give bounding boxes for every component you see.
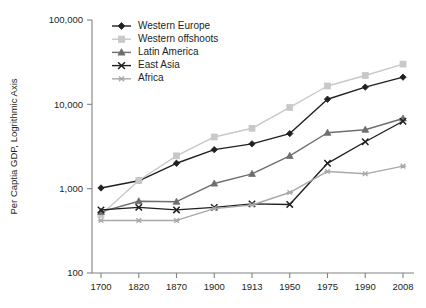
marker-diamond	[362, 84, 368, 90]
x-tick-label: 1990	[355, 281, 376, 292]
marker-x	[362, 139, 368, 145]
marker-square	[287, 104, 293, 110]
series-line	[101, 121, 403, 210]
x-tick-label: 2008	[392, 281, 413, 292]
y-axis-title: Per Captia GDP, Logrithmic Axis	[8, 78, 19, 214]
marker-square	[174, 153, 180, 159]
x-tick-label: 1975	[317, 281, 338, 292]
series-line	[101, 64, 403, 215]
legend-label-western-offshoots: Western offshoots	[138, 33, 218, 44]
chart-container: 1001,00010,000100,0001700182018701900191…	[0, 0, 426, 308]
x-tick-label: 1950	[279, 281, 300, 292]
series-east-asia	[98, 118, 406, 213]
marker-square	[400, 61, 406, 67]
marker-asterisk	[98, 218, 104, 223]
x-tick-label: 1700	[90, 281, 111, 292]
marker-diamond	[173, 160, 179, 166]
x-tick-label: 1900	[204, 281, 225, 292]
legend-label-east-asia: East Asia	[138, 59, 180, 70]
legend-label-latin-america: Latin America	[138, 46, 199, 57]
marker-asterisk	[400, 164, 406, 169]
gdp-line-chart: 1001,00010,000100,0001700182018701900191…	[0, 0, 426, 308]
marker-square	[249, 125, 255, 131]
marker-square	[325, 83, 331, 89]
marker-x	[324, 160, 330, 166]
marker-square	[211, 134, 217, 140]
marker-square	[362, 73, 368, 79]
marker-asterisk	[136, 218, 142, 223]
marker-diamond	[118, 23, 125, 30]
marker-asterisk	[118, 76, 125, 81]
marker-asterisk	[173, 218, 179, 223]
x-tick-label: 1870	[166, 281, 187, 292]
marker-square	[118, 36, 124, 42]
marker-triangle	[286, 152, 293, 158]
marker-diamond	[249, 141, 255, 147]
y-tick-label: 100,000	[49, 14, 83, 25]
marker-square	[136, 178, 142, 184]
marker-diamond	[98, 185, 104, 191]
series-line	[101, 118, 403, 211]
marker-diamond	[400, 74, 406, 80]
legend-label-western-europe: Western Europe	[138, 20, 211, 31]
y-tick-label: 10,000	[54, 99, 83, 110]
marker-asterisk	[362, 172, 368, 177]
marker-asterisk	[287, 190, 293, 195]
legend-label-africa: Africa	[138, 72, 164, 83]
series-western-offshoots	[98, 61, 406, 218]
legend: Western EuropeWestern offshootsLatin Ame…	[112, 20, 218, 84]
x-tick-label: 1820	[128, 281, 149, 292]
x-tick-label: 1913	[241, 281, 262, 292]
y-tick-label: 1,000	[59, 183, 83, 194]
y-tick-label: 100	[67, 267, 83, 278]
marker-asterisk	[324, 169, 330, 174]
marker-diamond	[211, 146, 217, 152]
